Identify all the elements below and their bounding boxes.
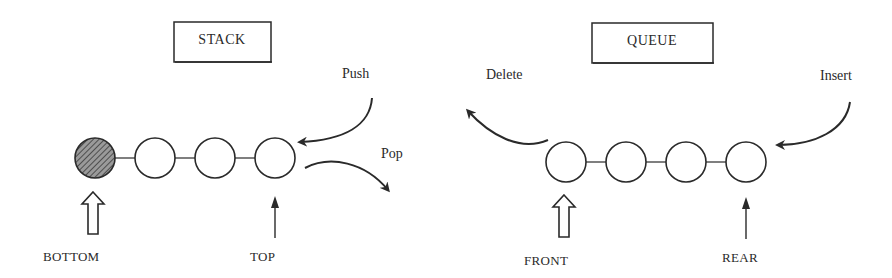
queue-node-rear bbox=[726, 142, 766, 182]
insert-label: Insert bbox=[820, 68, 852, 83]
queue-group: QUEUE Delete Insert FRONT REAR bbox=[468, 23, 852, 268]
stack-node-top bbox=[255, 138, 295, 178]
stack-node bbox=[135, 138, 175, 178]
pop-label: Pop bbox=[381, 146, 403, 161]
delete-arrow-icon bbox=[468, 111, 548, 144]
pop-arrow-icon bbox=[305, 162, 388, 190]
rear-label: REAR bbox=[722, 250, 758, 265]
delete-label: Delete bbox=[486, 67, 523, 82]
stack-queue-diagram: STACK Push Pop BOTTOM TOP bbox=[0, 0, 892, 278]
stack-node bbox=[195, 138, 235, 178]
bottom-label: BOTTOM bbox=[43, 249, 100, 264]
bottom-pointer-icon bbox=[82, 192, 104, 234]
stack-group: STACK Push Pop BOTTOM TOP bbox=[43, 22, 403, 264]
insert-arrow-icon bbox=[778, 102, 850, 145]
front-pointer-icon bbox=[553, 195, 575, 237]
stack-title: STACK bbox=[198, 32, 245, 47]
stack-node-bottom bbox=[75, 138, 115, 178]
rear-pointer-icon bbox=[742, 197, 750, 209]
push-label: Push bbox=[342, 66, 369, 81]
queue-node-front bbox=[546, 142, 586, 182]
top-label: TOP bbox=[250, 249, 275, 264]
queue-node bbox=[606, 142, 646, 182]
top-pointer-icon bbox=[271, 196, 279, 208]
front-label: FRONT bbox=[524, 253, 568, 268]
queue-node bbox=[666, 142, 706, 182]
push-arrow-icon bbox=[300, 98, 372, 142]
queue-title: QUEUE bbox=[627, 33, 677, 48]
